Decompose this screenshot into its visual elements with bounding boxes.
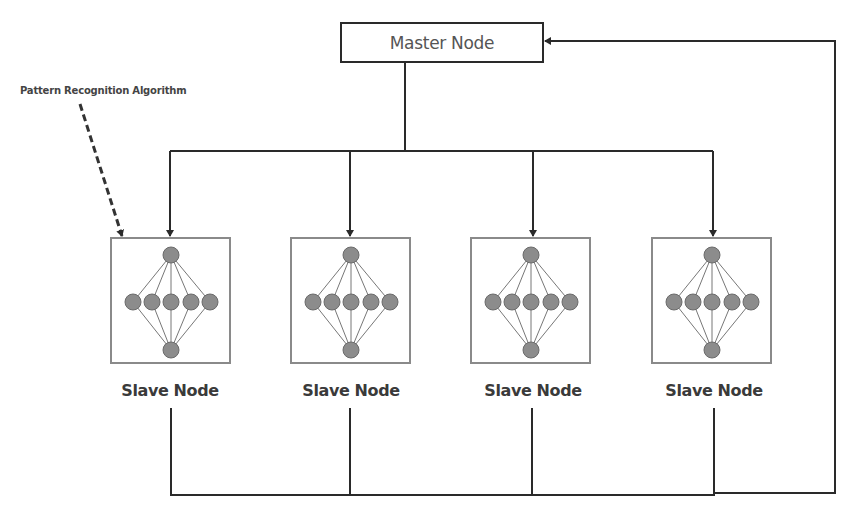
annotation-label: Pattern Recognition Algorithm <box>20 85 186 96</box>
slave-node-4 <box>651 237 772 364</box>
neuron-icon <box>743 294 759 310</box>
slave-node-2 <box>290 237 411 364</box>
neural-network-icon <box>112 239 233 366</box>
annotation-dashed-arrow <box>80 104 122 236</box>
neuron-icon <box>704 342 720 358</box>
neuron-icon <box>504 294 520 310</box>
neuron-icon <box>724 294 740 310</box>
neural-network-icon <box>472 239 593 366</box>
neuron-icon <box>202 294 218 310</box>
neuron-icon <box>704 294 720 310</box>
slave-node-label-1: Slave Node <box>100 381 240 400</box>
neuron-icon <box>163 342 179 358</box>
slave-node-3 <box>470 237 591 364</box>
neuron-icon <box>704 247 720 263</box>
neuron-icon <box>543 294 559 310</box>
neuron-icon <box>523 342 539 358</box>
slave-node-label-4: Slave Node <box>644 381 784 400</box>
neural-network-icon <box>653 239 774 366</box>
neuron-icon <box>163 294 179 310</box>
neuron-icon <box>485 294 501 310</box>
neuron-icon <box>144 294 160 310</box>
neuron-icon <box>183 294 199 310</box>
slave-node-1 <box>110 237 231 364</box>
neuron-icon <box>125 294 141 310</box>
neuron-icon <box>324 294 340 310</box>
neuron-icon <box>343 294 359 310</box>
neuron-icon <box>523 294 539 310</box>
neuron-icon <box>523 247 539 263</box>
neuron-icon <box>343 342 359 358</box>
neuron-icon <box>685 294 701 310</box>
master-node: Master Node <box>340 22 544 63</box>
neuron-icon <box>343 247 359 263</box>
neuron-icon <box>666 294 682 310</box>
neuron-icon <box>363 294 379 310</box>
neuron-icon <box>305 294 321 310</box>
neuron-icon <box>382 294 398 310</box>
slave-node-label-2: Slave Node <box>281 381 421 400</box>
neuron-icon <box>562 294 578 310</box>
slave-node-label-3: Slave Node <box>463 381 603 400</box>
master-node-label: Master Node <box>390 33 495 53</box>
neuron-icon <box>163 247 179 263</box>
neural-network-icon <box>292 239 413 366</box>
